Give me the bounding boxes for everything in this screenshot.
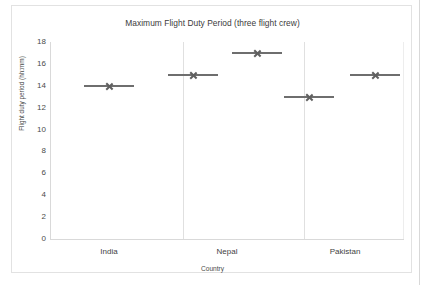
y-axis-tick-labels: 024681012141618 — [20, 42, 46, 239]
y-tick-label: 16 — [24, 60, 46, 68]
plot-area — [50, 42, 404, 239]
y-tick-label: 4 — [24, 191, 46, 199]
page-edge-rule — [419, 0, 420, 285]
category-separator-line — [304, 42, 305, 239]
x-marker-icon — [105, 82, 114, 91]
x-marker-icon — [253, 49, 262, 58]
x-axis-line — [50, 239, 404, 240]
x-category-label-pakistan: Pakistan — [330, 247, 361, 256]
plot-right-edge — [403, 42, 404, 239]
y-tick-label: 2 — [24, 213, 46, 221]
x-category-label-nepal: Nepal — [217, 247, 238, 256]
y-tick-label: 18 — [24, 38, 46, 46]
y-tick-label: 0 — [24, 235, 46, 243]
x-marker-icon — [371, 71, 380, 80]
x-axis-title: Country — [12, 265, 413, 272]
y-axis-line — [50, 42, 51, 239]
x-marker-icon — [189, 71, 198, 80]
category-separator-line — [183, 42, 184, 239]
x-category-label-india: India — [100, 247, 117, 256]
x-axis-category-labels: IndiaNepalPakistan — [50, 247, 404, 261]
y-tick-label: 6 — [24, 169, 46, 177]
chart-container: Maximum Flight Duty Period (three flight… — [11, 5, 412, 273]
y-tick-label: 14 — [24, 82, 46, 90]
x-marker-icon — [305, 93, 314, 102]
y-tick-label: 8 — [24, 147, 46, 155]
y-tick-label: 12 — [24, 104, 46, 112]
y-tick-label: 10 — [24, 126, 46, 134]
chart-title: Maximum Flight Duty Period (three flight… — [12, 18, 413, 28]
